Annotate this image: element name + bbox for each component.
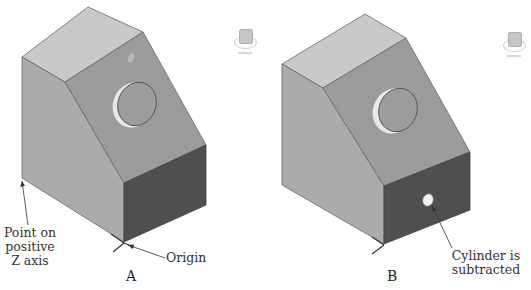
view-cube-icon-b[interactable] <box>502 30 526 60</box>
view-cube-label <box>507 55 521 57</box>
figure-stage: Point on positive Z axis Origin A Cylind… <box>0 0 531 290</box>
view-cube-icon-a[interactable] <box>233 27 257 57</box>
label-line: subtracted <box>450 263 522 277</box>
panel-caption-a: A <box>126 268 136 284</box>
view-cube-box <box>508 32 522 47</box>
label-origin: Origin <box>166 251 206 265</box>
label-line: Cylinder is <box>450 249 522 263</box>
view-cube-box <box>239 29 253 44</box>
drawing-canvas <box>0 0 531 290</box>
arrow-point-on-z-axis <box>22 181 28 225</box>
label-point-on-z-axis: Point on positive Z axis <box>2 226 58 268</box>
label-line: Point on <box>2 226 58 240</box>
label-line: positive <box>2 240 58 254</box>
block-b <box>282 14 470 254</box>
label-cylinder-subtracted: Cylinder is subtracted <box>450 249 522 277</box>
view-cube-label <box>238 52 252 54</box>
arrow-origin <box>128 245 165 258</box>
panel-caption-b: B <box>387 268 397 284</box>
label-line: Z axis <box>2 254 58 268</box>
block-a <box>22 7 206 252</box>
